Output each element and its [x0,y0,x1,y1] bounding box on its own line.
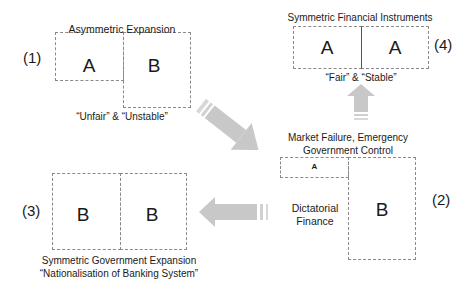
panel-2-side-label-line2: Finance [283,215,347,228]
panel-4-divider [361,26,362,69]
arrow-left-icon [199,196,274,228]
panel-4-label-left: A [316,38,338,57]
panel-3-number: (3) [22,203,40,218]
panel-3-caption-line1: Symmetric Government Expansion [34,255,204,267]
panel-4-caption: “Fair” & “Stable” [311,72,411,84]
panel-2-number: (2) [432,192,450,207]
panel-1-title: Asymmetric Expansion [60,23,184,35]
panel-4-title: Symmetric Financial Instruments [286,12,434,24]
panel-1-number: (1) [23,50,41,65]
panel-3-label-right: B [141,205,163,224]
panel-3-caption-line2: “Nationalisation of Banking System” [34,268,204,280]
panel-2-label-b: B [371,200,393,219]
panel-2-side-label-line1: Dictatorial [283,202,347,215]
panel-1-label-b: B [143,56,165,75]
panel-1-caption: “Unfair” & “Unstable” [70,111,174,123]
panel-2-label-a: A [280,162,349,171]
panel-3-label-left: B [72,205,94,224]
panel-4-number: (4) [434,37,452,52]
arrow-down-right-icon [195,95,275,165]
panel-4-label-right: A [384,38,406,57]
arrow-up-icon [346,84,376,124]
panel-2-title-line1: Market Failure, Emergency [280,132,416,144]
panel-1-label-a: A [78,56,100,75]
panel-2-title-line2: Government Control [280,145,416,157]
